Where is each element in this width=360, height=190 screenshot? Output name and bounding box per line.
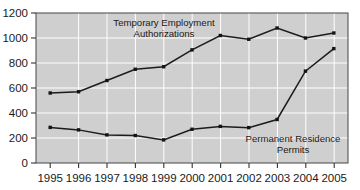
data-point	[304, 69, 307, 72]
y-tick-label-200: 200	[9, 132, 28, 144]
data-point	[105, 79, 108, 82]
line-chart: 1200 1000 800 600 400 200 0 1995 1996 19…	[0, 0, 360, 190]
x-tick-label-1998: 1998	[123, 172, 149, 184]
data-point	[48, 126, 51, 129]
x-tick-label-2003: 2003	[265, 172, 291, 184]
x-tick-label-1995: 1995	[37, 172, 63, 184]
data-point	[304, 36, 307, 39]
data-point	[162, 65, 165, 68]
data-point	[332, 31, 335, 34]
x-tick-label-1997: 1997	[94, 172, 120, 184]
data-point	[275, 118, 278, 121]
x-tick-label-1999: 1999	[151, 172, 177, 184]
y-tick-label-1000: 1000	[2, 32, 28, 44]
annotation-permanent-line2: Permits	[277, 144, 310, 155]
data-point	[77, 90, 80, 93]
chart-svg: 1200 1000 800 600 400 200 0 1995 1996 19…	[0, 0, 360, 190]
data-point	[190, 48, 193, 51]
data-point	[190, 128, 193, 131]
data-point	[247, 38, 250, 41]
data-point	[134, 68, 137, 71]
data-point	[275, 26, 278, 29]
y-tick-label-600: 600	[9, 82, 28, 94]
annotation-temporary-line1: Temporary Employment	[113, 17, 215, 28]
annotation-permanent-line1: Permanent Residence	[246, 133, 341, 144]
y-tick-label-1200: 1200	[2, 7, 28, 19]
data-point	[134, 134, 137, 137]
x-tick-label-1996: 1996	[66, 172, 92, 184]
data-point	[247, 126, 250, 129]
y-tick-label-0: 0	[22, 157, 28, 169]
x-tick-label-2002: 2002	[236, 172, 262, 184]
x-tick-label-2004: 2004	[293, 172, 319, 184]
data-point	[162, 138, 165, 141]
data-point	[77, 128, 80, 131]
y-tick-label-400: 400	[9, 107, 28, 119]
data-point	[219, 34, 222, 37]
data-point	[219, 125, 222, 128]
data-point	[332, 47, 335, 50]
x-tick-label-2005: 2005	[321, 172, 347, 184]
x-tick-label-2000: 2000	[179, 172, 205, 184]
y-tick-label-800: 800	[9, 57, 28, 69]
x-axis-labels: 1995 1996 1997 1998 1999 2000 2001 2002 …	[37, 172, 347, 184]
data-point	[48, 91, 51, 94]
annotation-temporary-line2: Authorizations	[134, 28, 195, 39]
x-tick-label-2001: 2001	[208, 172, 234, 184]
data-point	[105, 133, 108, 136]
